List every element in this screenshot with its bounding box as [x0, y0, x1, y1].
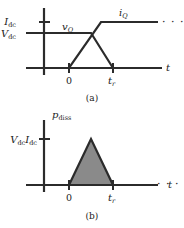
panel-b-power-triangle: [69, 139, 113, 185]
panel-a-axis-label-t: t: [166, 62, 171, 73]
panel-a-caption: (a): [86, 93, 98, 103]
panel-a-continuation-dots: · · ·: [162, 16, 184, 29]
panel-a-xlabel-tr: tr: [108, 75, 116, 88]
panel-a-curve-iq: [26, 22, 158, 68]
panel-b-xlabel-zero: 0: [66, 192, 72, 203]
panel-b: pdiss VdcIdc 0 tr t · · · (b): [10, 109, 179, 221]
switching-waveform-figure: Idc Vdc 0 tr t vQ iQ · · · (a): [0, 0, 184, 228]
panel-b-continuation-dots: · · ·: [157, 178, 179, 191]
panel-b-caption: (b): [86, 211, 99, 221]
panel-a-xlabel-zero: 0: [66, 75, 72, 86]
figure-container: Idc Vdc 0 tr t vQ iQ · · · (a): [0, 0, 184, 228]
panel-b-xlabel-tr: tr: [108, 192, 116, 205]
panel-a-annotation-iq: iQ: [119, 7, 128, 20]
panel-a-ylabel-vdc: Vdc: [1, 28, 16, 41]
panel-b-ylabel-pdiss: pdiss: [52, 109, 71, 122]
panel-a: Idc Vdc 0 tr t vQ iQ · · · (a): [1, 7, 184, 103]
panel-b-ylabel-vdcidc: VdcIdc: [10, 134, 37, 147]
